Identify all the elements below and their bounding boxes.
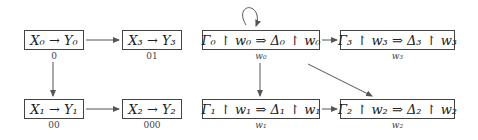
node-formula: Γ₃ ↾ w₃ ⇒ Δ₃ ↾ w₃ bbox=[338, 33, 457, 48]
node-label-w3: w₃ bbox=[340, 51, 455, 61]
node-gamma3: Γ₃ ↾ w₃ ⇒ Δ₃ ↾ w₃ bbox=[340, 30, 455, 50]
node-gamma1: Γ₁ ↾ w₁ ⇒ Δ₁ ↾ w₁ bbox=[202, 99, 320, 119]
node-formula: X₀ → Y₀ bbox=[30, 33, 77, 48]
node-formula: Γ₀ ↾ w₀ ⇒ Δ₀ ↾ w₀ bbox=[202, 33, 321, 48]
node-x0-y0: X₀ → Y₀ bbox=[24, 30, 84, 50]
node-formula: X₁ → Y₁ bbox=[30, 102, 77, 117]
node-formula: X₃ → Y₃ bbox=[128, 33, 175, 48]
edges-layer bbox=[0, 0, 478, 140]
node-label-00: 00 bbox=[24, 120, 84, 130]
node-label-0: 0 bbox=[24, 51, 84, 61]
node-x1-y1: X₁ → Y₁ bbox=[24, 99, 84, 119]
node-label-w2: w₂ bbox=[340, 120, 455, 130]
node-formula: Γ₁ ↾ w₁ ⇒ Δ₁ ↾ w₁ bbox=[202, 102, 321, 117]
node-label-w1: w₁ bbox=[202, 120, 320, 130]
node-label-w0: w₀ bbox=[202, 51, 320, 61]
node-gamma0: Γ₀ ↾ w₀ ⇒ Δ₀ ↾ w₀ bbox=[202, 30, 320, 50]
node-label-01: 01 bbox=[122, 51, 182, 61]
node-x2-y2: X₂ → Y₂ bbox=[122, 99, 182, 119]
node-formula: Γ₂ ↾ w₂ ⇒ Δ₂ ↾ w₂ bbox=[338, 102, 457, 117]
edge-m0-m2 bbox=[308, 64, 372, 96]
edge-m0-loop bbox=[243, 8, 258, 26]
node-gamma2: Γ₂ ↾ w₂ ⇒ Δ₂ ↾ w₂ bbox=[340, 99, 455, 119]
node-x3-y3: X₃ → Y₃ bbox=[122, 30, 182, 50]
node-label-000: 000 bbox=[122, 120, 182, 130]
node-formula: X₂ → Y₂ bbox=[128, 102, 175, 117]
